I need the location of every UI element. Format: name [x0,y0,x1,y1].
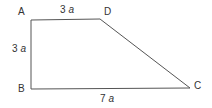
vertex-label-d: D [104,6,111,17]
vertex-label-a: A [18,6,25,17]
diagram-canvas: A D B C 3a 3a 7a [0,0,212,108]
side-ad-variable: a [69,4,75,15]
side-ad-number: 3 [60,4,66,15]
side-ab-variable: a [21,43,27,54]
side-bc-number: 7 [100,93,106,104]
vertex-label-c: C [194,80,201,91]
side-ab-number: 3 [12,43,18,54]
trapezoid-shape [31,19,190,89]
trapezoid-diagram: A D B C 3a 3a 7a [0,0,212,108]
side-label-bc: 7a [100,93,115,104]
side-label-ab: 3a [12,43,27,54]
vertex-label-b: B [18,83,25,94]
side-bc-variable: a [109,93,115,104]
side-label-ad: 3a [60,4,75,15]
